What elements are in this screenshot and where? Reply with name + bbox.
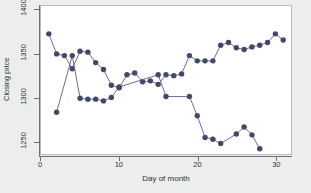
data-point	[280, 37, 285, 42]
series-line	[57, 56, 260, 149]
data-point	[101, 98, 106, 103]
chart-figure: 1250130013501400 0102030 Closing price D…	[0, 0, 311, 193]
x-tick-label: 0	[28, 160, 52, 169]
y-tick-mark	[34, 54, 39, 55]
data-point	[93, 60, 98, 65]
y-tick-label: 1400	[0, 3, 32, 12]
series-series-b	[54, 53, 263, 152]
data-point	[70, 53, 75, 58]
x-tick-label: 20	[186, 160, 210, 169]
data-point	[163, 72, 168, 77]
data-point	[62, 53, 67, 58]
data-point	[195, 113, 200, 118]
chart-series-canvas	[41, 6, 291, 154]
data-point	[226, 40, 231, 45]
data-point	[171, 73, 176, 78]
data-point	[85, 49, 90, 54]
data-point	[109, 95, 114, 100]
plot-area	[40, 5, 292, 155]
data-point	[234, 45, 239, 50]
data-point	[218, 42, 223, 47]
data-point	[210, 58, 215, 63]
y-axis-title: Closing price	[2, 44, 12, 114]
data-point	[155, 82, 160, 87]
series-line	[49, 34, 283, 88]
data-point	[187, 53, 192, 58]
data-point	[210, 137, 215, 142]
x-tick-label: 10	[107, 160, 131, 169]
x-tick-label: 30	[264, 160, 288, 169]
data-point	[241, 124, 246, 129]
data-point	[77, 49, 82, 54]
data-point	[116, 84, 121, 89]
data-point	[234, 131, 239, 136]
data-point	[273, 31, 278, 36]
data-point	[101, 67, 106, 72]
y-tick-mark	[34, 142, 39, 143]
series-series-a	[46, 31, 286, 90]
data-point	[77, 96, 82, 101]
data-point	[109, 83, 114, 88]
data-point	[46, 31, 51, 36]
x-axis-line	[39, 156, 292, 157]
data-point	[163, 94, 168, 99]
data-point	[179, 71, 184, 76]
data-point	[257, 42, 262, 47]
data-point	[241, 47, 246, 52]
data-point	[93, 96, 98, 101]
data-point	[218, 141, 223, 146]
data-point	[124, 72, 129, 77]
y-tick-label: 1250	[0, 136, 32, 145]
data-point	[155, 72, 160, 77]
data-point	[202, 58, 207, 63]
data-point	[148, 78, 153, 83]
data-point	[187, 94, 192, 99]
data-point	[54, 51, 59, 56]
data-point	[85, 96, 90, 101]
data-point	[265, 40, 270, 45]
data-point	[249, 132, 254, 137]
data-point	[249, 44, 254, 49]
x-axis-title: Day of month	[40, 174, 292, 183]
y-tick-mark	[34, 98, 39, 99]
data-point	[195, 58, 200, 63]
data-point	[132, 70, 137, 75]
y-axis-line	[39, 5, 40, 156]
data-point	[257, 146, 262, 151]
data-point	[54, 110, 59, 115]
data-point	[202, 135, 207, 140]
y-tick-mark	[34, 9, 39, 10]
